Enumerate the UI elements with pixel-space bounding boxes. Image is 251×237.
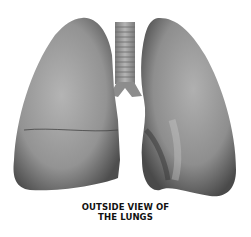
trachea bbox=[110, 22, 142, 97]
right-lung bbox=[14, 18, 120, 191]
caption-line-2: THE LUNGS bbox=[0, 212, 251, 222]
left-lung bbox=[141, 18, 236, 196]
caption-line-1: OUTSIDE VIEW OF bbox=[0, 202, 251, 212]
figure-caption: OUTSIDE VIEW OF THE LUNGS bbox=[0, 202, 251, 222]
